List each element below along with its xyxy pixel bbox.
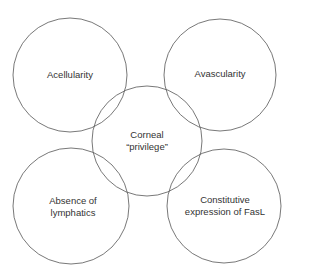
label-line: Avascularity — [194, 68, 245, 80]
label-line: Corneal — [126, 129, 168, 141]
label-avascularity: Avascularity — [194, 68, 245, 80]
label-line: “privilege” — [126, 141, 168, 153]
label-absence-of-lymphatics: Absence of lymphatics — [49, 195, 97, 219]
label-line: Constitutive — [185, 194, 265, 206]
label-fasl: Constitutive expression of FasL — [185, 194, 265, 218]
label-line: Absence of — [49, 195, 97, 207]
label-line: lymphatics — [49, 207, 97, 219]
label-line: expression of FasL — [185, 206, 265, 218]
label-corneal-privilege: Corneal “privilege” — [126, 129, 168, 153]
label-acellularity: Acellularity — [47, 69, 93, 81]
label-line: Acellularity — [47, 69, 93, 81]
